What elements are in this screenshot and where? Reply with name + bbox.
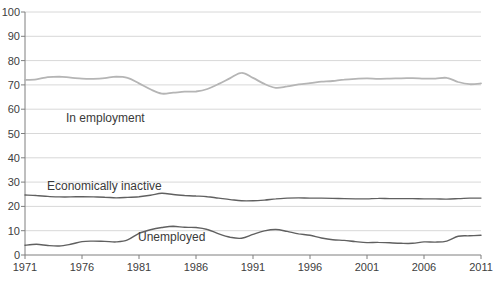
x-tick-label: 1991: [241, 261, 265, 273]
x-tick-label: 1996: [298, 261, 322, 273]
series-label-unemployed: Unemployed: [138, 231, 205, 243]
y-tick-label: 70: [8, 79, 20, 91]
x-tick-label: 2011: [469, 261, 493, 273]
y-tick-label: 40: [8, 152, 20, 164]
series-line-unemployed: [25, 226, 481, 246]
x-tick-label: 1971: [13, 261, 37, 273]
y-tick-label: 0: [14, 249, 20, 261]
x-tick-label: 2006: [412, 261, 436, 273]
chart-plot-area: 0102030405060708090100197119761981198619…: [0, 0, 493, 281]
y-tick-label: 10: [8, 225, 20, 237]
y-tick-label: 100: [2, 6, 20, 18]
x-tick-label: 1981: [127, 261, 151, 273]
series-line-economically-inactive: [25, 193, 481, 201]
x-tick-label: 1976: [70, 261, 94, 273]
y-tick-label: 50: [8, 128, 20, 140]
x-tick-label: 1986: [184, 261, 208, 273]
y-tick-label: 30: [8, 176, 20, 188]
series-line-in-employment: [25, 73, 481, 94]
y-tick-label: 90: [8, 30, 20, 42]
employment-rates-chart: 0102030405060708090100197119761981198619…: [0, 0, 493, 281]
series-label-economically-inactive: Economically inactive: [47, 180, 162, 192]
y-tick-label: 80: [8, 55, 20, 67]
x-tick-label: 2001: [355, 261, 379, 273]
y-tick-label: 20: [8, 200, 20, 212]
series-label-in-employment: In employment: [66, 112, 145, 124]
y-tick-label: 60: [8, 103, 20, 115]
